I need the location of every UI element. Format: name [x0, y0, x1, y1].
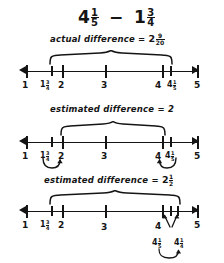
label-2-line1: 2	[58, 81, 64, 90]
label-4-line1: 4	[155, 81, 161, 90]
tick-3	[105, 136, 107, 149]
estimated-difference-half-denominator: 2	[169, 180, 173, 187]
tick-5	[197, 205, 199, 218]
subtrahend-mixed-number: 1 3 4	[134, 8, 155, 27]
label-4-1-5-line1: 4 1 5	[167, 80, 176, 90]
tick-3	[105, 65, 107, 78]
label-1-line3: 1	[22, 221, 28, 230]
actual-difference-brace	[48, 50, 174, 65]
rounding-arrow-up-to-2-icon	[41, 158, 65, 170]
rounding-arrow-down-to-4-icon	[157, 158, 179, 170]
estimated-difference-half-fraction: 1 2	[169, 174, 173, 186]
estimated-difference-half-caption-text: estimated difference =	[44, 175, 159, 185]
estimated-difference-half-brace	[48, 190, 182, 205]
label-1-3-4-line1: 1 3 4	[40, 80, 49, 90]
tick-2	[62, 205, 64, 218]
subtrahend-fraction: 3 4	[147, 8, 154, 27]
actual-difference-value: 2 9 20	[149, 33, 165, 45]
rounding-arrow-to-4-1-4-icon	[157, 249, 183, 260]
tick-4-1-5	[170, 137, 172, 147]
estimated-difference-half-caption: estimated difference = 2 1 2	[44, 174, 173, 186]
tick-1-3-4	[51, 66, 53, 76]
tick-1-3-4	[51, 206, 53, 216]
label-4-1-4-line3: 4 1 4	[174, 238, 183, 248]
actual-difference-caption-text: actual difference =	[50, 34, 145, 44]
estimated-difference-whole-caption: estimated difference = 2	[50, 105, 174, 114]
tick-1-3-4	[51, 137, 53, 147]
number-line-estimate-half	[0, 204, 224, 220]
actual-difference-whole: 2	[149, 34, 156, 44]
label-5-line2: 5	[194, 152, 200, 161]
label-3-line2: 3	[101, 152, 107, 161]
pointer-lines-line3	[161, 214, 183, 228]
label-1-line1: 1	[22, 81, 28, 90]
tick-1	[26, 65, 28, 78]
label-1-line2: 1	[22, 152, 28, 161]
label-5-line1: 5	[194, 81, 200, 90]
tick-4-1-5	[170, 66, 172, 76]
subtrahend-numerator: 3	[147, 8, 154, 17]
minuend-whole: 4	[78, 9, 90, 26]
tick-1	[26, 205, 28, 218]
actual-difference-fraction: 9 20	[156, 33, 165, 45]
estimated-difference-whole-brace	[59, 121, 167, 136]
minuend-numerator: 1	[91, 8, 98, 17]
axis-arrow-left-icon	[19, 66, 26, 74]
label-3-line3: 3	[101, 223, 107, 232]
minuend-mixed-number: 4 1 5	[78, 8, 99, 27]
tick-3	[105, 205, 107, 218]
label-5-line3: 5	[194, 221, 200, 230]
number-line-estimate-whole	[0, 135, 224, 151]
label-2-line3: 2	[58, 221, 64, 230]
actual-difference-caption: actual difference = 2 9 20	[50, 33, 165, 45]
tick-5	[197, 65, 199, 78]
tick-1	[26, 136, 28, 149]
axis-arrow-left-icon	[19, 137, 26, 145]
axis-arrow-left-icon	[19, 206, 26, 214]
tick-4	[162, 136, 164, 149]
subtrahend-whole: 1	[134, 9, 146, 26]
label-1-3-4-line3: 1 3 4	[40, 220, 49, 230]
estimated-difference-half-value: 2 1 2	[162, 174, 174, 186]
problem-expression: 4 1 5 − 1 3 4	[78, 8, 155, 27]
tick-2	[62, 65, 64, 78]
tick-4	[162, 65, 164, 78]
subtrahend-denominator: 4	[147, 17, 154, 27]
minuend-fraction: 1 5	[91, 8, 98, 27]
minus-operator: −	[105, 7, 128, 27]
minuend-denominator: 5	[91, 17, 98, 27]
tick-2	[62, 136, 64, 149]
label-3-line1: 3	[101, 81, 107, 90]
label-4-1-5-line3: 4 1 5	[152, 238, 161, 248]
number-line-actual	[0, 64, 224, 80]
worksheet-canvas: 4 1 5 − 1 3 4 actual difference = 2 9 20	[0, 0, 224, 263]
estimated-difference-half-whole: 2	[162, 175, 169, 185]
tick-5	[197, 136, 199, 149]
actual-difference-denominator: 20	[156, 39, 165, 46]
